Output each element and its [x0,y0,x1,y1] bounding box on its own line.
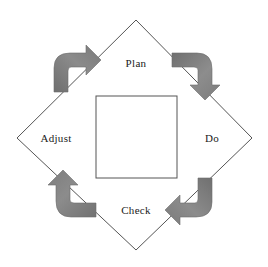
arrow-check-to-adjust [48,170,96,217]
stage-label-plan: Plan [126,57,147,69]
stage-label-check: Check [121,204,151,216]
stage-label-adjust: Adjust [40,132,71,144]
stage-label-do: Do [205,132,219,144]
pdca-cycle-diagram: Plan Do Check Adjust [0,0,268,267]
inner-square-outline [96,96,177,178]
arrow-do-to-check [165,178,212,225]
arrow-adjust-to-plan [54,45,101,92]
arrow-plan-to-do [172,53,220,100]
